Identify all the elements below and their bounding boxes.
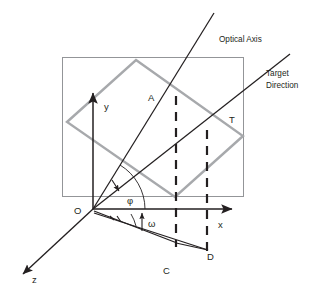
optical-axis-diagram: Optical Axis Target Direction y x z O A … (0, 0, 318, 297)
point-a-label: A (148, 92, 155, 103)
target-direction-callout-line2: Direction (266, 81, 299, 90)
diagram-canvas: Optical Axis Target Direction y x z O A … (0, 0, 318, 297)
y-axis-label: y (104, 101, 109, 112)
omega-angle-arc (131, 214, 136, 226)
origin-label: O (74, 205, 81, 216)
x-axis-label: x (218, 219, 223, 230)
z-axis-label: z (32, 274, 37, 285)
phi-angle-label: φ (127, 195, 133, 206)
point-t-label: T (229, 114, 235, 125)
point-d-label: D (207, 251, 214, 262)
z-axis-line (23, 209, 93, 274)
phi-angle-arrow (112, 180, 119, 191)
point-c-label: C (163, 265, 170, 276)
segment-c-to-d (176, 243, 208, 250)
target-direction-callout-line1: Target (266, 69, 289, 78)
omega-angle-label: ω (148, 218, 156, 229)
image-plane-rectangle (63, 58, 244, 197)
target-direction-line (93, 54, 290, 209)
optical-axis-callout-label: Optical Axis (219, 35, 262, 44)
